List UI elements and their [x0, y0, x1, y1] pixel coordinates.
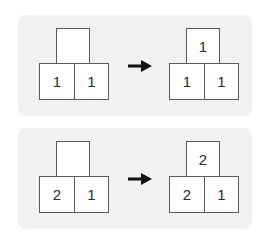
- bottom-right-box: 1: [74, 63, 109, 100]
- example-panel-1: 1 1 1 1 1: [18, 15, 252, 116]
- right-arrow-icon: [128, 173, 152, 185]
- top-box: [56, 141, 90, 177]
- bottom-left-box: 2: [169, 176, 205, 213]
- bottom-right-box: 1: [74, 176, 109, 213]
- bottom-right-box: 1: [204, 176, 239, 213]
- before-stack: 1 1: [39, 28, 109, 100]
- top-box: 2: [186, 141, 220, 177]
- after-stack: 1 1 1: [169, 28, 239, 100]
- after-stack: 2 2 1: [169, 141, 239, 213]
- right-arrow-icon: [128, 60, 152, 72]
- top-box: [56, 28, 90, 64]
- example-panel-2: 2 1 2 2 1: [18, 128, 252, 229]
- before-stack: 2 1: [39, 141, 109, 213]
- top-box: 1: [186, 28, 220, 64]
- bottom-left-box: 2: [39, 176, 75, 213]
- bottom-left-box: 1: [169, 63, 205, 100]
- bottom-right-box: 1: [204, 63, 239, 100]
- bottom-left-box: 1: [39, 63, 75, 100]
